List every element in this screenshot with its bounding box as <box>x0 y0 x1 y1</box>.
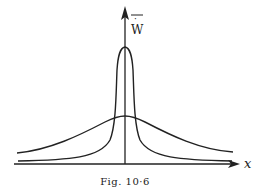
y-axis-label: W <box>131 23 144 37</box>
figure-diagram: x · W Fig. 10·6 <box>0 0 263 194</box>
x-axis-label: x <box>244 156 252 171</box>
figure-caption: Fig. 10·6 <box>100 176 150 187</box>
